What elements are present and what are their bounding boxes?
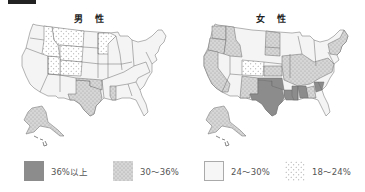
state-wy: [60, 45, 83, 62]
legend-label: 36%以上: [51, 165, 88, 177]
state-ks: [264, 66, 282, 76]
state-ak: [206, 106, 246, 136]
state-co: [242, 60, 264, 76]
state-ak: [24, 106, 64, 136]
map-panel-female: 女 性: [182, 0, 364, 150]
legend-label: 30～36%: [140, 165, 179, 177]
legend-swatch-white-dots: [285, 161, 305, 181]
us-map-male: [0, 0, 182, 150]
legend-item-30-36: 30～36%: [113, 159, 179, 183]
state-al: [298, 86, 308, 98]
map-panel-male: 男 性: [0, 0, 182, 150]
legend-item-24-30: 24～30%: [204, 159, 270, 183]
state-wa: [212, 26, 226, 40]
legend-swatch-gray-dots: [113, 161, 133, 181]
state-hi: [34, 136, 47, 146]
state-co: [60, 60, 82, 76]
state-ms: [292, 86, 298, 100]
legend-swatch-light: [204, 161, 224, 181]
legend-label: 24～30%: [231, 165, 270, 177]
legend-swatch-dark: [24, 161, 44, 181]
legend: 36%以上 30～36% 24～30% 18～24%: [0, 159, 365, 183]
state-hi: [216, 136, 229, 146]
state-nd-sd: [265, 31, 280, 56]
legend-item-18-24: 18～24%: [285, 159, 351, 183]
state-ms: [110, 86, 116, 100]
legend-item-36-plus: 36%以上: [24, 159, 88, 183]
state-ut: [48, 56, 60, 75]
us-map-female: [182, 0, 364, 150]
legend-label: 18～24%: [312, 165, 351, 177]
